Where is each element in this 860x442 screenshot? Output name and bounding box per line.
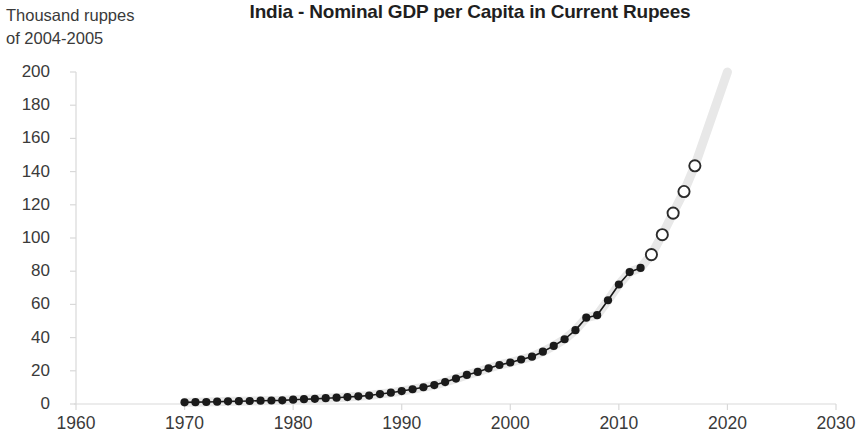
x-axis-tick-label: 2000: [475, 414, 545, 432]
x-axis-tick-label: 2020: [692, 414, 762, 432]
x-axis-tick-label: 1970: [150, 414, 220, 432]
x-axis-tick-label: 1990: [367, 414, 437, 432]
x-axis-tick-label: 1960: [41, 414, 111, 432]
x-axis-tick-label: 1980: [258, 414, 328, 432]
x-axis-tick-label: 2030: [801, 414, 860, 432]
x-axis-tick-label: 2010: [584, 414, 654, 432]
